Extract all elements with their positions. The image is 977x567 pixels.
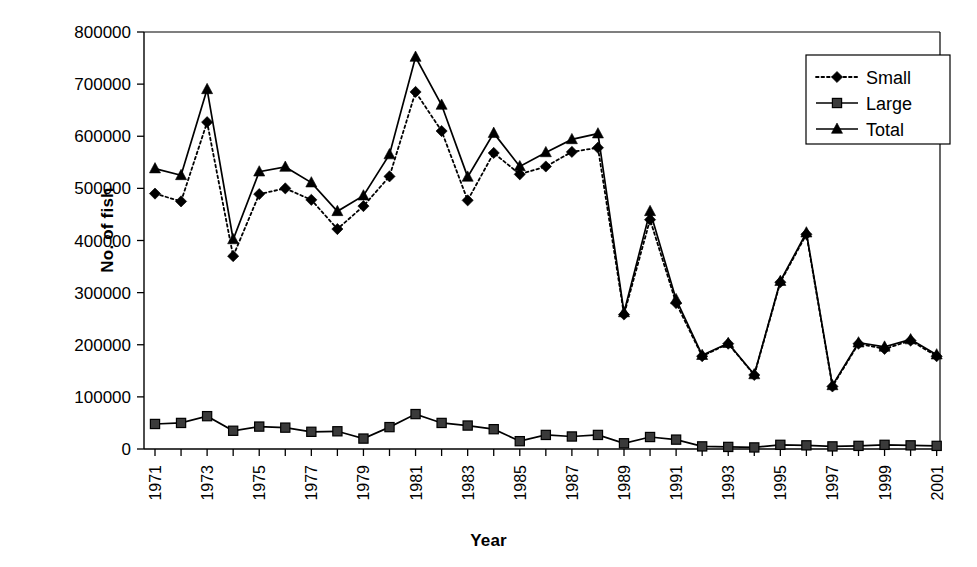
- data-point-diamond: [801, 229, 812, 240]
- legend-label: Large: [866, 94, 912, 114]
- data-point-diamond: [436, 125, 447, 136]
- data-point-square: [802, 441, 811, 450]
- data-point-diamond: [592, 142, 603, 153]
- data-point-square: [489, 425, 498, 434]
- data-point-triangle: [462, 171, 473, 181]
- y-tick-label: 100000: [74, 388, 131, 407]
- x-tick-label: 1987: [564, 465, 581, 501]
- data-point-square: [411, 409, 420, 418]
- data-point-diamond: [175, 196, 186, 207]
- x-tick-label: 1995: [772, 465, 789, 501]
- x-tick-label: 1997: [824, 465, 841, 501]
- y-tick-label: 300000: [74, 284, 131, 303]
- data-point-diamond: [488, 147, 499, 158]
- data-point-triangle: [306, 177, 317, 187]
- data-point-square: [255, 422, 264, 431]
- data-point-square: [281, 423, 290, 432]
- data-point-square: [880, 440, 889, 449]
- x-tick-label: 1983: [460, 465, 477, 501]
- data-point-triangle: [280, 161, 291, 171]
- x-tick-label: 2001: [929, 465, 946, 501]
- data-point-square: [567, 432, 576, 441]
- y-axis-ticks: 0100000200000300000400000500000600000700…: [74, 23, 144, 459]
- data-point-square: [724, 442, 733, 451]
- y-tick-label: 0: [122, 440, 131, 459]
- x-tick-label: 1999: [877, 465, 894, 501]
- x-tick-label: 1977: [303, 465, 320, 501]
- data-point-diamond: [149, 188, 160, 199]
- data-point-diamond: [202, 117, 213, 128]
- data-point-square: [150, 419, 159, 428]
- data-point-square: [307, 427, 316, 436]
- data-point-triangle: [540, 146, 551, 156]
- y-tick-label: 800000: [74, 23, 131, 42]
- data-point-square: [932, 441, 941, 450]
- x-tick-label: 1979: [355, 465, 372, 501]
- data-point-triangle: [149, 163, 160, 173]
- data-point-diamond: [462, 195, 473, 206]
- data-point-diamond: [254, 189, 265, 200]
- data-point-square: [698, 442, 707, 451]
- data-point-square: [828, 442, 837, 451]
- data-point-square: [229, 426, 238, 435]
- x-tick-label: 1993: [720, 465, 737, 501]
- data-point-square: [203, 412, 212, 421]
- data-point-square: [854, 441, 863, 450]
- data-point-square: [776, 440, 785, 449]
- x-tick-label: 1975: [251, 465, 268, 501]
- x-tick-label: 1981: [408, 465, 425, 501]
- data-point-square: [359, 434, 368, 443]
- data-point-square: [437, 418, 446, 427]
- series-large: [150, 409, 941, 452]
- y-tick-label: 400000: [74, 232, 131, 251]
- data-point-diamond: [384, 171, 395, 182]
- data-point-diamond: [228, 251, 239, 262]
- fish-count-line-chart: No. of fish Year 01000002000003000004000…: [0, 0, 977, 567]
- data-point-diamond: [566, 146, 577, 157]
- data-point-square: [832, 98, 841, 107]
- chart-screenshot: No. of fish Year 01000002000003000004000…: [0, 0, 977, 567]
- data-point-triangle: [384, 148, 395, 158]
- x-tick-label: 1973: [199, 465, 216, 501]
- data-point-square: [333, 427, 342, 436]
- data-point-square: [515, 437, 524, 446]
- y-tick-label: 700000: [74, 75, 131, 94]
- data-point-square: [672, 435, 681, 444]
- data-point-square: [619, 439, 628, 448]
- data-point-triangle: [410, 51, 421, 61]
- data-point-square: [176, 418, 185, 427]
- data-point-square: [645, 432, 654, 441]
- data-point-triangle: [202, 83, 213, 93]
- data-point-triangle: [436, 99, 447, 109]
- legend-label: Small: [866, 68, 911, 88]
- data-point-square: [593, 430, 602, 439]
- data-point-diamond: [280, 183, 291, 194]
- data-point-square: [750, 443, 759, 452]
- data-point-diamond: [540, 161, 551, 172]
- data-point-diamond: [827, 381, 838, 392]
- x-axis-ticks: 1971197319751977197919811983198519871989…: [147, 449, 946, 501]
- data-point-triangle: [358, 190, 369, 200]
- data-point-diamond: [697, 351, 708, 362]
- y-tick-label: 500000: [74, 179, 131, 198]
- data-point-diamond: [775, 277, 786, 288]
- data-point-square: [541, 430, 550, 439]
- x-tick-label: 1989: [616, 465, 633, 501]
- data-point-square: [906, 441, 915, 450]
- data-point-square: [463, 421, 472, 430]
- data-point-triangle: [488, 127, 499, 137]
- plot-svg: 0100000200000300000400000500000600000700…: [0, 0, 977, 567]
- data-point-square: [385, 423, 394, 432]
- y-tick-label: 200000: [74, 336, 131, 355]
- data-point-diamond: [410, 86, 421, 97]
- data-point-diamond: [618, 309, 629, 320]
- legend-label: Total: [866, 120, 904, 140]
- data-point-diamond: [905, 335, 916, 346]
- legend[interactable]: SmallLargeTotal: [806, 55, 950, 144]
- y-tick-label: 600000: [74, 127, 131, 146]
- x-tick-label: 1985: [512, 465, 529, 501]
- x-tick-label: 1971: [147, 465, 164, 501]
- data-point-triangle: [592, 128, 603, 138]
- x-tick-label: 1991: [668, 465, 685, 501]
